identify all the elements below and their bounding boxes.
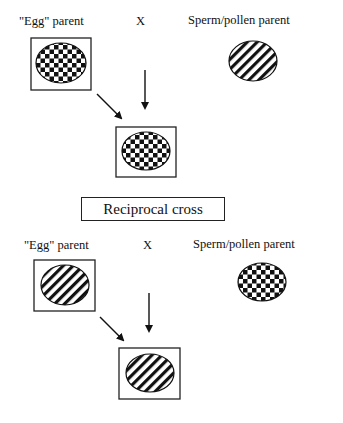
offspring-cell-striped <box>126 354 174 392</box>
egg-parent-cell-checkered <box>36 43 86 83</box>
egg-parent-cell-striped <box>41 265 89 305</box>
diagonal-arrow-2 <box>100 317 123 340</box>
sperm-parent-cell-striped <box>229 41 277 81</box>
cross-diagram <box>0 0 343 423</box>
reciprocal-cross-group <box>34 260 286 399</box>
original-cross-group <box>31 38 277 177</box>
sperm-parent-cell-checkered <box>238 263 286 301</box>
diagonal-arrow-1 <box>97 94 121 118</box>
offspring-cell-checkered <box>122 132 170 170</box>
